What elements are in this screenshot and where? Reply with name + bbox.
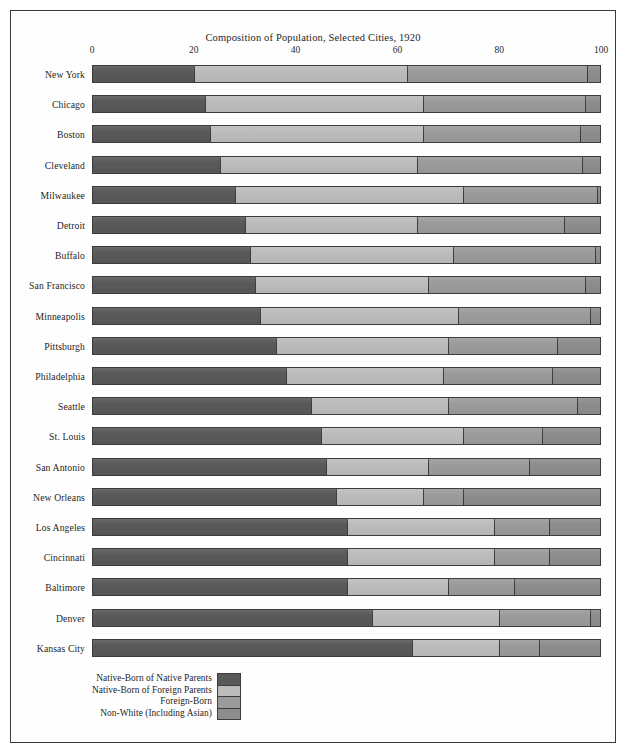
city-label: St. Louis [11,431,85,442]
legend-swatch-1 [218,685,240,696]
bar-segment-2 [448,579,514,595]
bar-row: Detroit [11,210,615,240]
bar-segment-0 [93,368,286,384]
bar-segment-1 [250,247,453,263]
bar-segment-0 [93,217,245,233]
bar-segment-3 [585,277,600,293]
bar-segment-2 [423,489,464,505]
city-label: Chicago [11,99,85,110]
stacked-bar [92,95,601,113]
bar-segment-3 [463,489,600,505]
bar-row: St. Louis [11,421,615,451]
bar-segment-1 [210,126,423,142]
stacked-bar [92,276,601,294]
bar-row: Denver [11,603,615,633]
bar-segment-0 [93,66,194,82]
bar-segment-2 [428,459,529,475]
bar-row: Seattle [11,391,615,421]
bar-row: Boston [11,119,615,149]
city-label: Buffalo [11,250,85,261]
bar-segment-3 [557,338,600,354]
bar-row: New York [11,59,615,89]
bar-segment-3 [590,610,600,626]
legend-labels: Native-Born of Native ParentsNative-Born… [92,673,212,719]
legend-swatch-0 [218,674,240,684]
bar-segment-0 [93,610,372,626]
bar-segment-3 [585,96,600,112]
bar-segment-3 [542,428,600,444]
x-axis-tick-100: 100 [594,45,608,55]
bar-segment-3 [580,126,600,142]
x-axis-tick-labels: 020406080100 [92,45,601,59]
bar-segment-1 [326,459,427,475]
bar-segment-1 [286,368,443,384]
bar-segment-0 [93,157,220,173]
stacked-bar [92,609,601,627]
bar-segment-3 [597,187,600,203]
stacked-bar [92,578,601,596]
bar-segment-2 [494,519,550,535]
stacked-bar [92,156,601,174]
stacked-bar [92,337,601,355]
bar-segment-2 [499,610,590,626]
bar-segment-2 [494,549,550,565]
stacked-bar [92,427,601,445]
bar-segment-2 [443,368,552,384]
bar-segment-2 [423,126,580,142]
chart-legend: Native-Born of Native ParentsNative-Born… [92,673,241,720]
bar-segment-1 [220,157,418,173]
bar-row: Cleveland [11,150,615,180]
city-label: New Orleans [11,491,85,502]
bar-segment-0 [93,579,347,595]
bar-segment-0 [93,489,336,505]
bar-segment-3 [595,247,600,263]
bar-row: Minneapolis [11,301,615,331]
stacked-bar [92,518,601,536]
bar-segment-2 [463,428,542,444]
bar-segment-1 [311,398,448,414]
bar-segment-2 [458,308,590,324]
bar-segment-3 [577,398,600,414]
x-axis-tick-40: 40 [291,45,301,55]
bar-segment-2 [417,157,582,173]
bar-segment-1 [245,217,417,233]
x-axis-tick-20: 20 [189,45,199,55]
stacked-bar [92,367,601,385]
bar-row: Pittsburgh [11,331,615,361]
bar-segment-0 [93,187,235,203]
bar-segment-3 [539,640,600,656]
bar-segment-0 [93,277,255,293]
bar-segment-1 [347,519,494,535]
bar-segment-1 [372,610,499,626]
bar-segment-0 [93,428,321,444]
bar-segment-3 [552,368,600,384]
bar-segment-3 [587,66,600,82]
bar-segment-3 [549,549,600,565]
x-axis-tick-0: 0 [90,45,95,55]
bar-segment-1 [276,338,448,354]
city-label: Cincinnati [11,552,85,563]
stacked-bar [92,186,601,204]
legend-swatch-2 [218,696,240,707]
city-label: Seattle [11,401,85,412]
legend-swatches [217,673,241,720]
city-label: Cleveland [11,159,85,170]
bar-segment-1 [235,187,463,203]
bar-segment-2 [407,66,587,82]
legend-swatch-3 [218,708,240,719]
legend-label: Native-Born of Foreign Parents [92,685,212,696]
bar-segment-2 [423,96,585,112]
bar-segment-0 [93,308,260,324]
bar-row: New Orleans [11,482,615,512]
stacked-bar [92,397,601,415]
bars-area: New YorkChicagoBostonClevelandMilwaukeeD… [11,59,615,663]
bar-segment-1 [347,549,494,565]
bar-segment-0 [93,338,276,354]
city-label: Baltimore [11,582,85,593]
bar-row: San Antonio [11,452,615,482]
bar-row: Los Angeles [11,512,615,542]
bar-segment-2 [463,187,597,203]
stacked-bar [92,458,601,476]
stacked-bar [92,488,601,506]
x-axis-tick-80: 80 [494,45,504,55]
